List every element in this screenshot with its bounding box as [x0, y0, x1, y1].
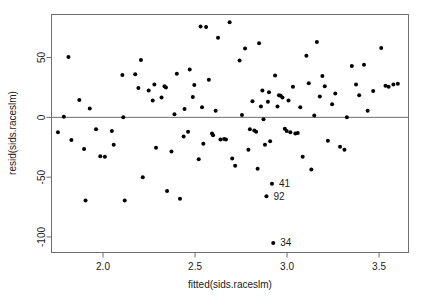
- data-point: [182, 134, 186, 138]
- data-point: [110, 129, 114, 133]
- data-point: [238, 59, 242, 63]
- data-point: [362, 63, 366, 67]
- data-point: [201, 142, 205, 146]
- data-point: [62, 115, 66, 119]
- data-point: [250, 99, 254, 103]
- data-point: [318, 94, 322, 98]
- data-point: [154, 146, 158, 150]
- data-point: [233, 164, 237, 168]
- y-tick-label: 50: [36, 52, 47, 64]
- data-point: [230, 157, 234, 161]
- data-point: [264, 194, 268, 198]
- data-point: [266, 100, 270, 104]
- data-point: [301, 155, 305, 159]
- data-point: [169, 149, 173, 153]
- data-point: [285, 129, 289, 133]
- data-point: [354, 82, 358, 86]
- data-point: [160, 96, 164, 100]
- data-point: [136, 86, 140, 90]
- data-point: [257, 41, 261, 45]
- data-point: [309, 167, 313, 171]
- data-point: [291, 85, 295, 89]
- data-point: [330, 102, 334, 106]
- data-point: [333, 91, 337, 95]
- data-point: [263, 143, 267, 147]
- data-point: [172, 112, 176, 116]
- data-point: [256, 167, 260, 171]
- data-point: [273, 73, 277, 77]
- data-point: [248, 127, 252, 131]
- data-point: [218, 137, 222, 141]
- data-point: [192, 83, 196, 87]
- data-point: [254, 130, 258, 134]
- data-point: [183, 107, 187, 111]
- data-point: [211, 133, 215, 137]
- x-tick-label: 3.0: [280, 261, 294, 272]
- data-point: [357, 93, 361, 97]
- data-point: [200, 105, 204, 109]
- data-point: [186, 130, 190, 134]
- data-point: [112, 143, 116, 147]
- data-point: [214, 109, 218, 113]
- data-point: [216, 36, 220, 40]
- data-point: [379, 46, 383, 50]
- x-tick-label: 2.5: [188, 261, 202, 272]
- data-point: [204, 25, 208, 29]
- data-point: [123, 198, 127, 202]
- data-point: [191, 95, 195, 99]
- data-point: [396, 82, 400, 86]
- data-point: [323, 84, 327, 88]
- data-point: [175, 72, 179, 76]
- data-point: [66, 55, 70, 59]
- y-tick-label: -50: [36, 169, 47, 184]
- data-point: [366, 109, 370, 113]
- y-tick-label: 0: [36, 114, 47, 120]
- data-point: [345, 115, 349, 119]
- data-point: [82, 147, 86, 151]
- y-axis-title: resid(sids.raceslm): [7, 91, 18, 175]
- data-point: [103, 155, 107, 159]
- data-point: [164, 85, 168, 89]
- plot-background: [0, 0, 428, 296]
- x-tick-label: 2.0: [96, 261, 110, 272]
- data-point: [120, 73, 124, 77]
- data-point: [207, 78, 211, 82]
- data-point: [271, 241, 275, 245]
- data-point: [243, 47, 247, 51]
- data-point: [188, 68, 192, 72]
- data-point: [391, 82, 395, 86]
- data-point: [296, 131, 300, 135]
- data-point: [165, 189, 169, 193]
- data-point: [371, 89, 375, 93]
- data-point: [307, 81, 311, 85]
- data-point: [141, 175, 145, 179]
- data-point: [197, 157, 201, 161]
- data-point: [147, 88, 151, 92]
- x-axis-title: fitted(sids.raceslm): [188, 279, 272, 290]
- data-point: [151, 99, 155, 103]
- data-point: [288, 130, 292, 134]
- data-point: [133, 72, 137, 76]
- data-point: [56, 130, 60, 134]
- data-point: [267, 90, 271, 94]
- data-point: [304, 54, 308, 58]
- data-point: [280, 96, 284, 100]
- y-tick-label: -100: [36, 227, 47, 247]
- outlier-label-41: 41: [279, 178, 291, 189]
- x-tick-label: 3.5: [372, 261, 386, 272]
- data-point: [270, 182, 274, 186]
- data-point: [228, 20, 232, 24]
- data-point: [84, 198, 88, 202]
- scatter-plot-canvas: 2.02.53.03.5 500-50-100 419234 fitted(si…: [0, 0, 428, 296]
- data-point: [320, 74, 324, 78]
- data-point: [261, 117, 265, 121]
- data-point: [298, 105, 302, 109]
- data-point: [312, 114, 316, 118]
- data-point: [259, 105, 263, 109]
- data-point: [260, 88, 264, 92]
- data-point: [224, 137, 228, 141]
- data-point: [338, 145, 342, 149]
- data-point: [69, 138, 73, 142]
- data-point: [387, 85, 391, 89]
- data-point: [268, 139, 272, 143]
